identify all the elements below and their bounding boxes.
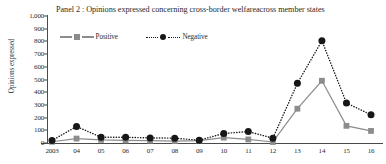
data-point-negative-06[interactable] [122,134,129,141]
data-point-positive-04[interactable] [74,136,80,142]
data-point-positive-13[interactable] [294,106,300,112]
data-point-negative-07[interactable] [147,134,154,141]
series-line-negative [52,41,371,141]
x-tick-label: 13 [294,147,301,155]
legend-label-negative: Negative [182,33,207,41]
data-point-negative-16[interactable] [368,111,375,118]
data-point-negative-2003[interactable] [49,137,56,144]
data-point-negative-05[interactable] [98,134,105,141]
data-point-negative-14[interactable] [318,37,325,44]
legend-line-negative-right [168,37,180,38]
data-point-negative-08[interactable] [171,135,178,142]
legend-line-positive-right [82,36,94,37]
chart-legend: Positive Negative [60,33,208,41]
x-tick-label: 08 [171,147,178,155]
data-point-positive-15[interactable] [344,123,350,129]
data-point-negative-04[interactable] [73,123,80,130]
data-point-positive-14[interactable] [319,78,325,84]
legend-line-negative-left [146,37,158,38]
x-tick-label: 07 [147,147,154,155]
x-tick-label: 2003 [45,147,58,155]
legend-line-positive-left [60,36,72,37]
data-point-negative-09[interactable] [196,137,203,144]
x-tick-label: 16 [368,147,375,155]
chart-panel: Panel 2 : Opinions expressed concerning … [0,0,386,164]
legend-item-negative[interactable]: Negative [146,33,208,41]
x-tick-label: 12 [270,147,277,155]
y-axis-title: Opinions expressed [8,18,16,114]
x-tick-label: 10 [220,147,227,155]
x-tick-label: 15 [343,147,350,155]
legend-item-positive[interactable]: Positive [60,33,118,41]
x-axis-line [41,143,383,144]
x-tick-label: 06 [122,147,129,155]
chart-title: Panel 2 : Opinions expressed concerning … [56,5,384,15]
x-tick-label: 05 [98,147,105,155]
square-marker-icon [74,34,80,40]
legend-label-positive: Positive [96,33,118,41]
data-point-negative-10[interactable] [220,130,227,137]
series-line-positive [52,81,371,142]
x-tick-label: 09 [196,147,203,155]
x-tick-label: 04 [73,147,80,155]
data-point-negative-13[interactable] [294,80,301,87]
data-point-negative-11[interactable] [245,128,252,135]
data-point-positive-11[interactable] [245,137,251,143]
x-tick-label: 11 [245,147,251,155]
circle-marker-icon [160,34,167,41]
data-point-negative-15[interactable] [343,100,350,107]
data-point-positive-16[interactable] [368,128,374,134]
data-point-negative-12[interactable] [269,135,276,142]
x-tick-label: 14 [319,147,326,155]
